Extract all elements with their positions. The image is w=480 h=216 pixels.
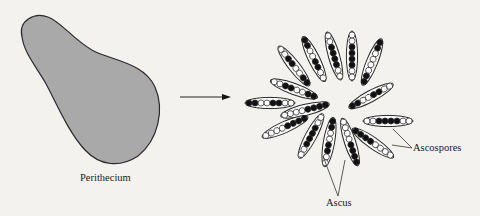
ascospore-light (400, 118, 406, 124)
ascus (346, 31, 357, 81)
ascospore-dark (388, 118, 394, 124)
ascospore-light (264, 100, 270, 106)
ascospore-light (349, 68, 355, 74)
ascospores-leader-lines (392, 129, 412, 148)
ascospore-light (370, 118, 376, 124)
ascospore-light (349, 38, 355, 44)
perithecium-shape (21, 16, 159, 164)
ascospores-label: Ascospores (413, 142, 461, 153)
ascospore-light (349, 32, 355, 38)
ascospore-light (364, 118, 370, 124)
ascospore-dark (349, 50, 355, 56)
ascus (337, 116, 363, 167)
ascospore-light (258, 100, 264, 106)
ascospore-dark (394, 118, 400, 124)
ascospore-dark (252, 100, 258, 106)
ascus (357, 37, 386, 88)
ascospore-dark (270, 100, 276, 106)
ascospore-light (406, 118, 412, 124)
ascus-label: Ascus (326, 197, 352, 208)
ascospore-dark (246, 100, 252, 106)
ascus (245, 97, 295, 108)
ascospore-light (282, 100, 288, 106)
ascospore-dark (349, 44, 355, 50)
ascospore-dark (382, 118, 388, 124)
ascospore-light (349, 74, 355, 80)
diagram-canvas (0, 0, 480, 216)
ascospore-light (288, 100, 294, 106)
ascus (346, 79, 395, 112)
ascospore-dark (349, 56, 355, 62)
perithecium-label: Perithecium (80, 172, 131, 183)
asci-rosette (245, 30, 413, 167)
arrow-icon (180, 94, 231, 100)
ascospore-dark (276, 100, 282, 106)
ascospore-dark (376, 118, 382, 124)
ascus (363, 115, 413, 126)
ascospore-dark (349, 62, 355, 68)
